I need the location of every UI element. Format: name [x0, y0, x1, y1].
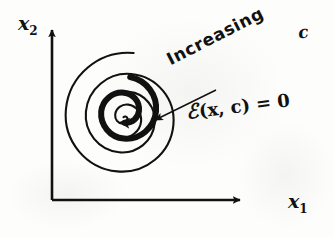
- direction-arrow: [101, 77, 156, 139]
- diagram-canvas: [0, 0, 334, 237]
- x-axis-label: x1: [288, 192, 308, 215]
- y-axis-label: x2: [18, 14, 38, 37]
- figure-container: x2 x1 Increasing c ℰ(x, c) = 0: [0, 0, 334, 237]
